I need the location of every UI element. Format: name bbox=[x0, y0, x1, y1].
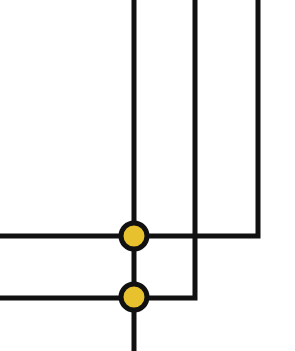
line-b bbox=[134, 0, 195, 298]
line-diagram bbox=[0, 0, 295, 351]
junction-bottom bbox=[121, 284, 147, 310]
junction-top bbox=[121, 223, 147, 249]
